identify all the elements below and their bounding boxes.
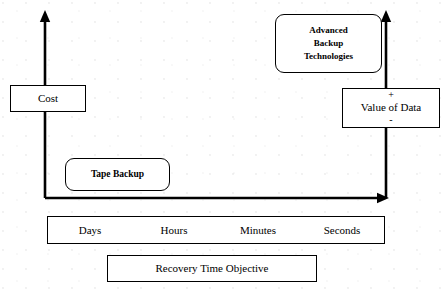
recovery-time-objective-box: Recovery Time Objective [107,255,317,282]
advanced-backup-technologies-box: Advanced Backup Technologies [275,14,382,73]
tape-backup-label: Tape Backup [91,169,144,180]
value-minus-sign: - [389,115,392,125]
advanced-backup-line-1: Advanced [309,24,348,37]
time-tick-seconds: Seconds [300,224,384,237]
advanced-backup-line-2: Backup [314,37,344,50]
diagram-canvas: Cost + Value of Data - Advanced Backup T… [0,0,445,294]
time-scale-box: Days Hours Minutes Seconds [47,216,385,244]
cost-label-box: Cost [10,85,86,112]
time-tick-days: Days [48,224,132,237]
time-axis [45,193,389,203]
tape-backup-box: Tape Backup [65,158,170,191]
cost-label: Cost [38,92,58,105]
advanced-backup-line-3: Technologies [304,50,353,63]
time-tick-hours: Hours [132,224,216,237]
value-of-data-box: + Value of Data - [342,88,440,128]
time-tick-minutes: Minutes [216,224,300,237]
recovery-time-objective-label: Recovery Time Objective [155,262,268,275]
value-of-data-label: Value of Data [361,101,421,114]
value-plus-sign: + [388,90,394,100]
